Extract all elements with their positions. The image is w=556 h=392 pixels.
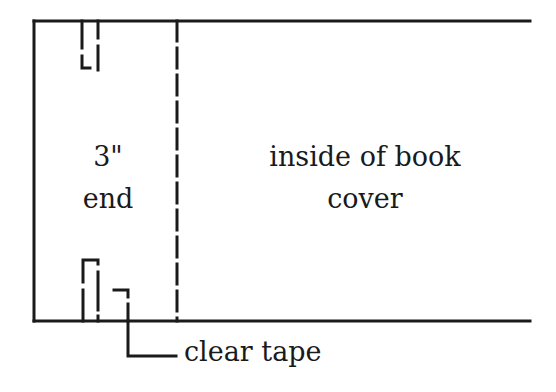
end-size-text: 3" [60, 136, 156, 178]
end-label: 3" end [60, 136, 156, 220]
top-tape-piece [82, 21, 98, 70]
clear-tape-label: clear tape [184, 336, 322, 368]
cover-label: inside of book cover [230, 136, 500, 220]
tape-leader-piece [114, 290, 176, 356]
bottom-tape-piece [83, 260, 98, 321]
cover-line2-text: cover [230, 178, 500, 220]
end-word-text: end [60, 178, 156, 220]
cover-line1-text: inside of book [230, 136, 500, 178]
